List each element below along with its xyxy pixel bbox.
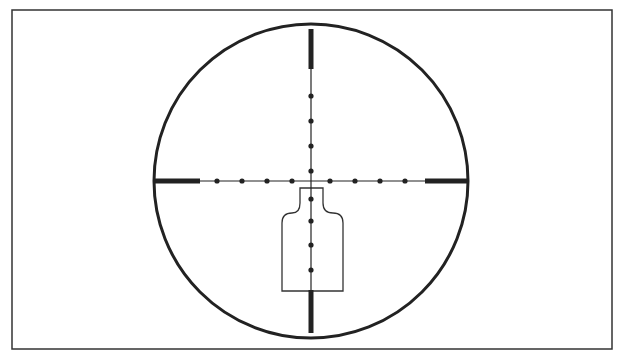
- crosshair-thin-lines: [200, 69, 425, 290]
- target-silhouette: [282, 188, 343, 291]
- mil-dot: [264, 178, 269, 183]
- mil-dot: [308, 168, 313, 173]
- mil-dot: [308, 93, 313, 98]
- mil-dot: [239, 178, 244, 183]
- reticle-diagram: [0, 0, 622, 359]
- mil-dot: [308, 196, 313, 201]
- mil-dot: [308, 143, 313, 148]
- mil-dot: [289, 178, 294, 183]
- mil-dot: [327, 178, 332, 183]
- mil-dot: [352, 178, 357, 183]
- silhouette-outline: [282, 188, 343, 291]
- mil-dot: [308, 267, 313, 272]
- mil-dot: [214, 178, 219, 183]
- mil-dot: [308, 118, 313, 123]
- mil-dot: [308, 242, 313, 247]
- mil-dot: [308, 218, 313, 223]
- mil-dot: [402, 178, 407, 183]
- mil-dot: [377, 178, 382, 183]
